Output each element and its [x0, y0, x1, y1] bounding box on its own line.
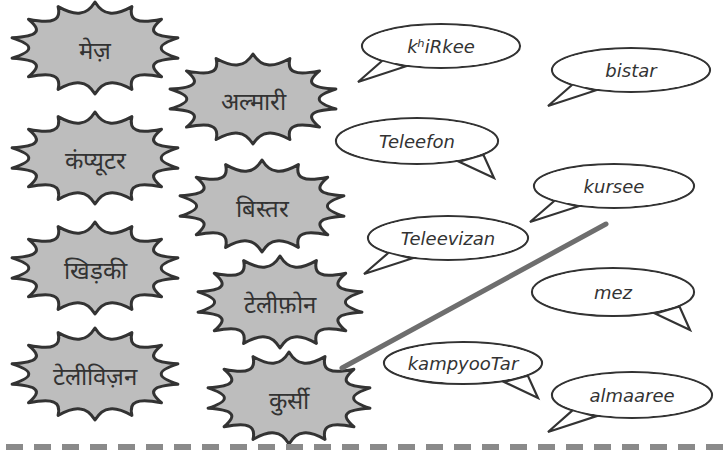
hindi-word-card-kursi[interactable]: कुर्सी — [206, 352, 372, 444]
transliteration-label: kampyooTar — [382, 340, 544, 386]
hindi-word-card-mez[interactable]: मेज़ — [10, 2, 180, 94]
hindi-word-card-telephone[interactable]: टेलीफ़ोन — [196, 256, 364, 348]
hindi-word-label: मेज़ — [10, 2, 180, 94]
hindi-word-card-computer[interactable]: कंप्यूटर — [10, 112, 180, 204]
hindi-word-card-television[interactable]: टेलीविज़न — [10, 328, 180, 420]
transliteration-label: kursee — [532, 162, 696, 210]
transliteration-bubble-bistar[interactable]: bistar — [550, 46, 712, 108]
transliteration-bubble-mez[interactable]: mez — [530, 266, 696, 332]
dashed-divider — [6, 444, 724, 450]
transliteration-bubble-teleevizan[interactable]: Teleevizan — [366, 214, 530, 276]
transliteration-label: Teleevizan — [366, 214, 530, 262]
hindi-word-card-bistar[interactable]: बिस्तर — [178, 160, 346, 252]
hindi-word-label: खिड़की — [10, 222, 180, 314]
transliteration-label: mez — [530, 266, 696, 318]
transliteration-bubble-kampyootar[interactable]: kampyooTar — [382, 340, 544, 400]
transliteration-label: Teleefon — [334, 116, 500, 166]
transliteration-label: bistar — [550, 46, 712, 94]
transliteration-label: almaaree — [550, 370, 714, 420]
hindi-word-card-almari[interactable]: अल्मारी — [168, 54, 338, 144]
transliteration-label: kʰiRkee — [360, 22, 522, 70]
hindi-word-label: कुर्सी — [206, 352, 372, 444]
hindi-word-label: कंप्यूटर — [10, 112, 180, 204]
hindi-word-card-khirki[interactable]: खिड़की — [10, 222, 180, 314]
hindi-word-label: टेलीविज़न — [10, 328, 180, 420]
transliteration-bubble-khirkee[interactable]: kʰiRkee — [360, 22, 522, 84]
hindi-word-label: टेलीफ़ोन — [196, 256, 364, 348]
hindi-word-label: बिस्तर — [178, 160, 346, 252]
transliteration-bubble-almaaree[interactable]: almaaree — [550, 370, 714, 434]
transliteration-bubble-kursee[interactable]: kursee — [532, 162, 696, 224]
hindi-word-label: अल्मारी — [168, 54, 338, 144]
transliteration-bubble-teleefon[interactable]: Teleefon — [334, 116, 500, 180]
